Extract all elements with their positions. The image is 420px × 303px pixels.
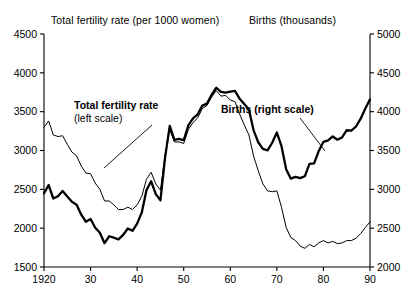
fertility-annotation-subtitle: (left scale) [74,112,122,124]
births-annotation-title: Births [221,103,251,115]
births-annotation: Births (right scale) [221,103,314,115]
chart-container: Total fertility rate (per 1000 women) Bi… [0,0,420,303]
annotation-labels: Total fertility rate (left scale) Births… [0,0,420,303]
births-annotation-subtitle: (right scale) [251,103,313,115]
fertility-annotation-title: Total fertility rate [74,99,159,111]
